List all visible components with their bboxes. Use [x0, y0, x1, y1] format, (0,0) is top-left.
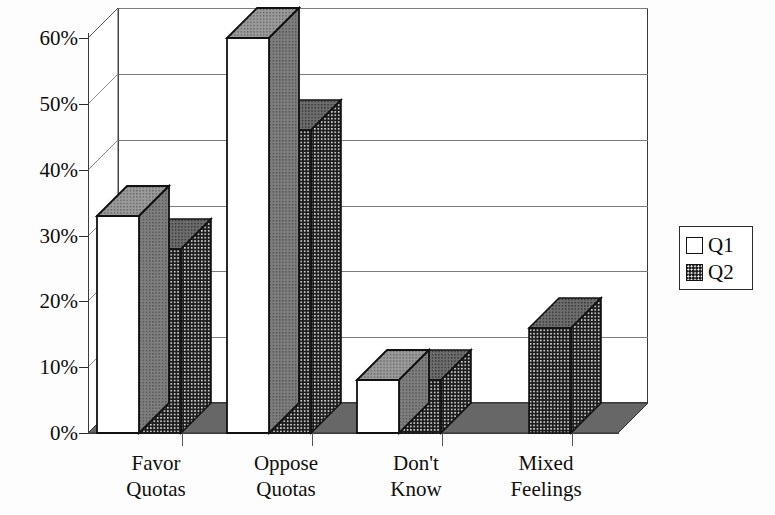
ytick-label-0: 0%: [0, 421, 78, 446]
legend-swatch-q2-icon: [686, 264, 703, 281]
y-axis-line: [88, 33, 89, 434]
gridline-30: [118, 206, 648, 207]
ytick-label-40: 40%: [0, 158, 78, 183]
ytick-mark-10: [79, 367, 88, 368]
gridline-60: [118, 8, 648, 9]
xlabel-favor-quotas-line1: Favor: [92, 450, 220, 476]
bar-favor-quotas-q1: [97, 186, 171, 435]
legend-label-q2: Q2: [708, 262, 734, 283]
chart-container: 60% 50% 40% 30% 20% 10% 0%: [0, 0, 775, 515]
xlabel-favor-quotas: Favor Quotas: [92, 450, 220, 502]
xtick-2: [312, 433, 313, 446]
xlabel-dont-know: Don't Know: [352, 450, 480, 502]
xlabel-oppose-quotas-line2: Quotas: [222, 476, 350, 502]
xtick-1: [182, 433, 183, 446]
xtick-4: [572, 433, 573, 446]
gridline-40: [118, 140, 648, 141]
xtick-3: [442, 433, 443, 446]
legend-item-q1: Q1: [686, 232, 748, 259]
xlabel-oppose-quotas-line1: Oppose: [222, 450, 350, 476]
xlabel-favor-quotas-line2: Quotas: [92, 476, 220, 502]
ytick-mark-0: [79, 433, 88, 434]
legend-swatch-q1-icon: [686, 237, 703, 254]
bar-oppose-quotas-q1: [227, 8, 301, 435]
ytick-mark-30: [79, 236, 88, 237]
bar-dont-know-q1: [357, 350, 431, 435]
ytick-label-30: 30%: [0, 224, 78, 249]
ytick-mark-20: [79, 301, 88, 302]
ytick-mark-40: [79, 170, 88, 171]
ytick-label-20: 20%: [0, 289, 78, 314]
legend: Q1 Q2: [679, 226, 753, 290]
ytick-mark-50: [79, 104, 88, 105]
legend-item-q2: Q2: [686, 259, 748, 286]
xlabel-oppose-quotas: Oppose Quotas: [222, 450, 350, 502]
xlabel-dont-know-line1: Don't: [352, 450, 480, 476]
xlabel-mixed-feelings-line2: Feelings: [482, 476, 610, 502]
ytick-mark-60: [79, 38, 88, 39]
gridline-50: [118, 74, 648, 75]
xlabel-dont-know-line2: Know: [352, 476, 480, 502]
xlabel-mixed-feelings: Mixed Feelings: [482, 450, 610, 502]
ytick-label-60: 60%: [0, 26, 78, 51]
ytick-label-50: 50%: [0, 92, 78, 117]
ytick-label-10: 10%: [0, 355, 78, 380]
legend-label-q1: Q1: [708, 235, 734, 256]
bar-mixed-feelings-q2: [529, 298, 603, 435]
xlabel-mixed-feelings-line1: Mixed: [482, 450, 610, 476]
